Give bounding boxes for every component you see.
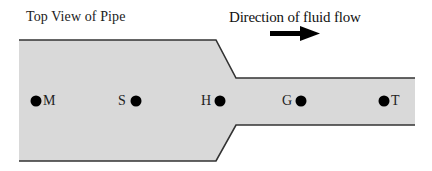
pipe-drawing bbox=[0, 0, 432, 171]
point-s-dot bbox=[131, 96, 142, 107]
point-h-label: H bbox=[201, 94, 211, 108]
point-h-dot bbox=[215, 96, 226, 107]
point-g-dot bbox=[296, 96, 307, 107]
point-t-dot bbox=[379, 96, 390, 107]
point-s-label: S bbox=[118, 94, 126, 108]
point-m-label: M bbox=[43, 94, 55, 108]
point-t-label: T bbox=[391, 94, 400, 108]
arrow-right-icon bbox=[270, 26, 320, 41]
point-m-dot bbox=[31, 96, 42, 107]
point-g-label: G bbox=[282, 94, 292, 108]
pipe-diagram: Top View of Pipe Direction of fluid flow… bbox=[0, 0, 432, 171]
